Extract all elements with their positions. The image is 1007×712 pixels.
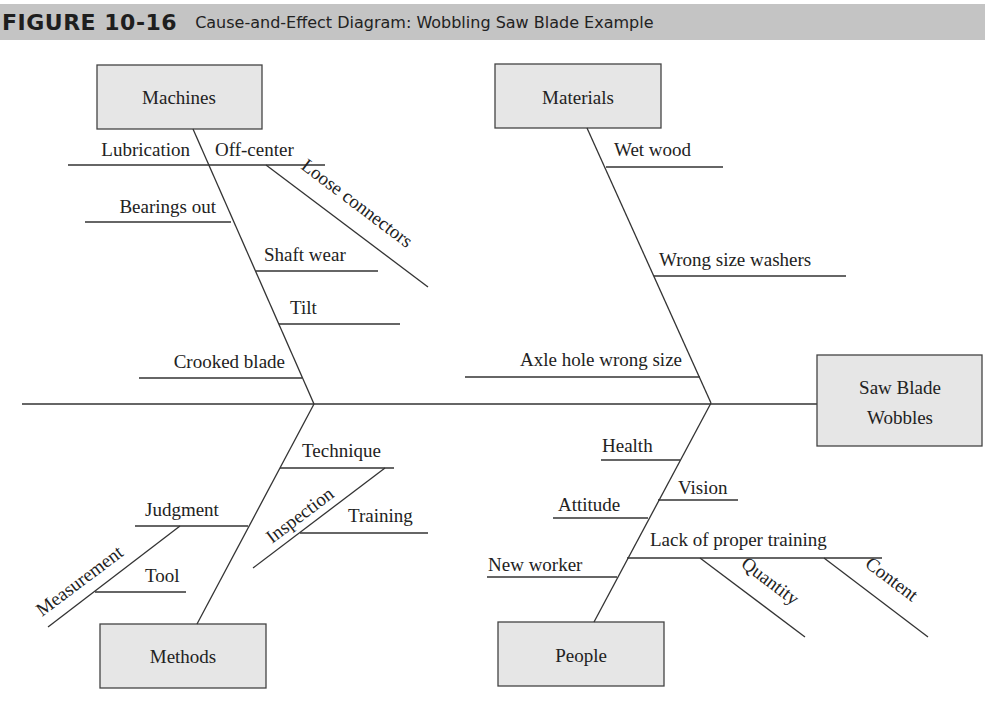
cause-judgment: Judgment bbox=[145, 499, 220, 520]
machines-label: Machines bbox=[142, 87, 216, 108]
cause-bearings-out: Bearings out bbox=[119, 196, 216, 217]
cause-training: Training bbox=[348, 505, 413, 526]
methods-label: Methods bbox=[150, 646, 217, 667]
cause-inspection: Inspection bbox=[262, 482, 338, 547]
cause-vision: Vision bbox=[678, 477, 728, 498]
cause-axle-hole-wrong-size: Axle hole wrong size bbox=[520, 349, 682, 370]
cause-measurement: Measurement bbox=[32, 541, 128, 620]
cause-lubrication: Lubrication bbox=[101, 139, 190, 160]
fishbone-diagram: Saw Blade Wobbles Machines Lubrication O… bbox=[0, 0, 1007, 712]
cause-technique: Technique bbox=[302, 440, 381, 461]
cause-attitude: Attitude bbox=[558, 494, 620, 515]
category-machines: Machines Lubrication Off-center Loose co… bbox=[68, 65, 428, 404]
effect-box: Saw Blade Wobbles bbox=[817, 355, 982, 446]
cause-shaft-wear: Shaft wear bbox=[264, 244, 346, 265]
cause-new-worker: New worker bbox=[488, 554, 583, 575]
cause-quantity: Quantity bbox=[738, 552, 804, 609]
cause-health: Health bbox=[602, 435, 653, 456]
cause-lack-of-proper-training: Lack of proper training bbox=[650, 529, 827, 550]
cause-wrong-size-washers: Wrong size washers bbox=[659, 249, 811, 270]
category-materials: Materials Wet wood Wrong size washers Ax… bbox=[465, 64, 846, 403]
materials-label: Materials bbox=[542, 87, 614, 108]
cause-tool: Tool bbox=[145, 565, 180, 586]
cause-crooked-blade: Crooked blade bbox=[174, 351, 285, 372]
people-label: People bbox=[555, 645, 607, 666]
effect-line-2: Wobbles bbox=[867, 407, 933, 428]
effect-line-1: Saw Blade bbox=[859, 377, 941, 398]
category-methods: Methods Technique Inspection Training Ju… bbox=[32, 404, 428, 688]
cause-content: Content bbox=[862, 552, 923, 605]
cause-wet-wood: Wet wood bbox=[614, 139, 692, 160]
cause-tilt: Tilt bbox=[290, 297, 317, 318]
cause-off-center: Off-center bbox=[215, 139, 294, 160]
